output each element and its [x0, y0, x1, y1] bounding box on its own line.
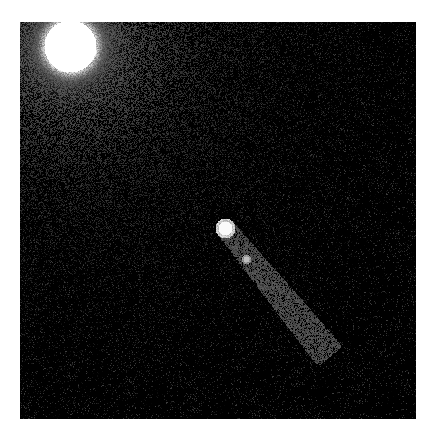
image-canvas	[20, 22, 416, 419]
astronomical-image	[20, 22, 416, 419]
caption	[0, 425, 435, 441]
